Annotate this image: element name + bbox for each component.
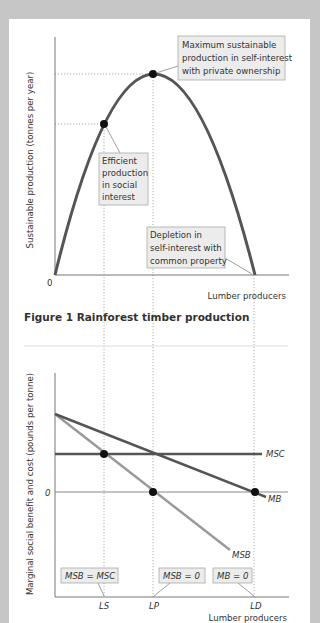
tick-ls: LS xyxy=(99,601,110,611)
svg-text:MB = 0: MB = 0 xyxy=(217,571,249,581)
svg-text:interest: interest xyxy=(102,192,136,202)
tick-ld: LD xyxy=(250,601,262,611)
max-point xyxy=(149,70,157,78)
fig2-x-label: Lumber producers xyxy=(209,613,288,623)
fig1-x-label: Lumber producers xyxy=(208,291,287,301)
svg-text:MSB = MSC: MSB = MSC xyxy=(65,571,115,581)
msb-line xyxy=(55,414,230,550)
annotation-max: Maximum sustainable production in self-i… xyxy=(178,36,293,80)
figure2: MSC MB MSB 0 MSB = MSC MSB = 0 MB = 0 LS… xyxy=(25,373,289,623)
svg-text:common property: common property xyxy=(150,256,227,266)
box-msb-eq-0: MSB = 0 xyxy=(159,568,205,583)
ld-point xyxy=(251,488,259,496)
fig1-origin-label: 0 xyxy=(47,278,52,288)
fig2-zero-label: 0 xyxy=(45,488,51,498)
fig1-y-label: Sustainable production (tonnes per year) xyxy=(25,72,35,249)
mb-label: MB xyxy=(268,494,281,504)
svg-text:Maximum sustainable: Maximum sustainable xyxy=(182,40,276,50)
annotation-depletion: Depletion in self-interest with common p… xyxy=(147,227,227,268)
fig2-leader-lines xyxy=(98,583,254,596)
lp-point xyxy=(149,488,157,496)
mb-line xyxy=(55,414,266,497)
box-msb-eq-msc: MSB = MSC xyxy=(61,568,118,583)
ls-point xyxy=(100,450,108,458)
efficient-point xyxy=(100,120,108,128)
svg-text:self-interest with: self-interest with xyxy=(150,243,222,253)
tick-lp: LP xyxy=(149,601,160,611)
svg-text:in social: in social xyxy=(102,180,137,190)
svg-text:with private ownership: with private ownership xyxy=(182,66,280,76)
svg-text:production in self-interest: production in self-interest xyxy=(182,53,293,63)
svg-text:Efficient: Efficient xyxy=(102,156,138,166)
svg-text:production: production xyxy=(102,168,148,178)
svg-text:Depletion in: Depletion in xyxy=(150,230,202,240)
dotted-guides xyxy=(55,74,254,597)
box-mb-eq-0: MB = 0 xyxy=(213,568,252,583)
fig2-y-label: Marginal social benefit and cost (pounds… xyxy=(25,373,35,595)
annotation-efficient: Efficient production in social interest xyxy=(99,153,148,205)
msc-label: MSC xyxy=(266,449,285,459)
msb-label: MSB xyxy=(232,550,251,560)
svg-text:MSB = 0: MSB = 0 xyxy=(163,571,200,581)
figure1-caption: Figure 1 Rainforest timber production xyxy=(24,311,249,323)
